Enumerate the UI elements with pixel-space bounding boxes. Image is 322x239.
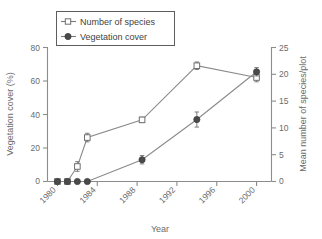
x-tick-label: 1992: [157, 185, 178, 206]
x-tick-label: 1980: [37, 185, 58, 206]
y-axis-left-title: Vegetation cover (%): [5, 72, 15, 156]
data-point: [85, 135, 91, 141]
y-tick-label: 40: [31, 110, 41, 120]
data-point: [84, 178, 90, 184]
y2-tick-label: 25: [279, 43, 289, 53]
y2-tick-label: 10: [279, 123, 289, 133]
data-point: [194, 116, 200, 122]
chart-legend: Number of species Vegetation cover: [57, 12, 175, 46]
x-tick-label: 1988: [117, 185, 138, 206]
y2-tick-label: 0: [279, 176, 284, 186]
x-tick-label: 1984: [77, 185, 98, 206]
data-point: [139, 117, 145, 123]
y2-tick-label: 20: [279, 69, 289, 79]
y-axis-right-title: Mean number of species/plot: [298, 56, 308, 172]
legend-marker-filled-circle: [65, 33, 71, 39]
series-vegetation-cover: [54, 68, 259, 185]
y-tick-label: 0: [35, 176, 40, 186]
y-tick-label: 60: [31, 76, 41, 86]
x-tick-label: 2000: [237, 185, 258, 206]
line-chart: 0 20 40 60 80 Vegetation cover (%) 0 5 1…: [0, 0, 322, 239]
data-point: [54, 178, 60, 184]
axis-left: 0 20 40 60 80 Vegetation cover (%): [5, 43, 48, 187]
chart-figure: 0 20 40 60 80 Vegetation cover (%) 0 5 1…: [0, 0, 322, 239]
legend-label: Vegetation cover: [80, 32, 147, 42]
y-tick-label: 80: [31, 43, 41, 53]
x-axis-title: Year: [151, 224, 169, 234]
legend-label: Number of species: [80, 17, 156, 27]
legend-marker-open-square: [65, 19, 70, 24]
x-tick-label: 1996: [197, 185, 218, 206]
y2-tick-label: 5: [279, 150, 284, 160]
data-point: [74, 178, 80, 184]
data-point: [194, 63, 200, 69]
data-point: [253, 69, 259, 75]
axis-right: 0 5 10 15 20 25 Mean number of species/p…: [272, 43, 309, 187]
data-point: [75, 164, 81, 170]
y2-tick-label: 15: [279, 96, 289, 106]
data-point: [64, 178, 70, 184]
data-point: [139, 157, 145, 163]
data-series-group: [54, 62, 259, 185]
series-number-of-species: [55, 62, 260, 184]
y-tick-label: 20: [31, 143, 41, 153]
axis-x: 198019841988199219962000 Year: [37, 182, 271, 235]
